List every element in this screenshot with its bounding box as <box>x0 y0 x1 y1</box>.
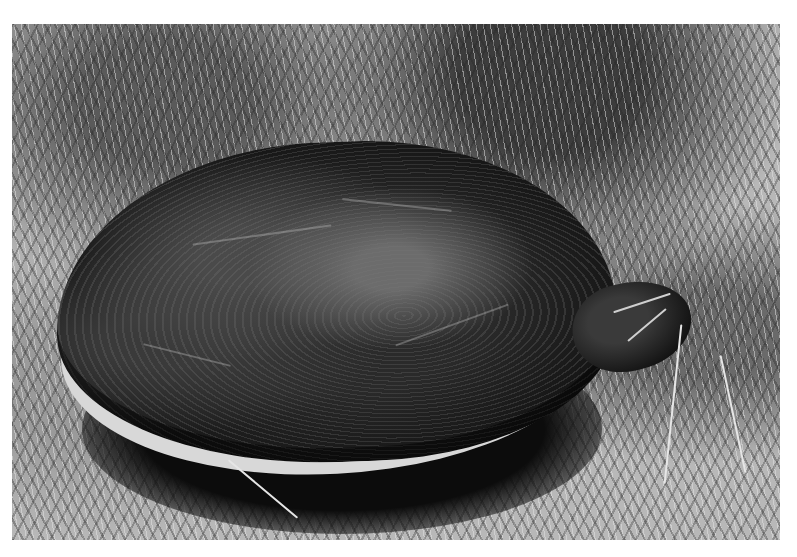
turtle-photograph <box>12 24 780 540</box>
grass-blade <box>720 355 747 473</box>
turtle-shell <box>51 132 622 471</box>
